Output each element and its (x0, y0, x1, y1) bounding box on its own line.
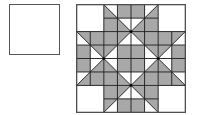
vertex-dot (157, 57, 160, 60)
gray-piece (117, 45, 131, 58)
empty-square (9, 4, 60, 55)
gray-piece (117, 5, 131, 18)
gray-piece (77, 45, 91, 58)
gray-piece (77, 58, 91, 71)
gray-piece (131, 45, 145, 58)
gray-piece (117, 58, 131, 71)
vertex-dot (102, 57, 105, 60)
gray-piece (117, 99, 131, 112)
gray-piece (172, 45, 186, 58)
vertex-dot (130, 30, 133, 33)
gray-piece (131, 58, 145, 71)
gray-piece (131, 99, 145, 112)
gray-piece (172, 58, 186, 71)
vertex-dot (130, 84, 133, 87)
quilt-block-diagram (76, 4, 186, 113)
gray-piece (131, 5, 145, 18)
